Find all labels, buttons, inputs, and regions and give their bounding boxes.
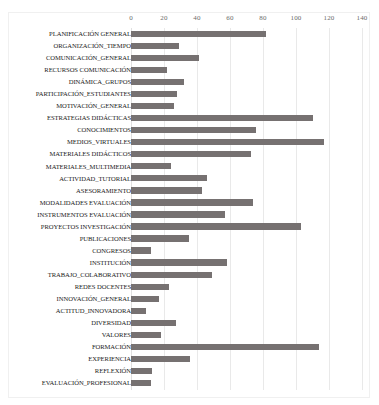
bar-row: ASESORAMIENTO <box>0 185 379 197</box>
bar-track <box>131 173 362 185</box>
category-label: REDES DOCENTES <box>3 281 131 293</box>
bar-row: REFLEXIÓN <box>0 365 379 377</box>
bar-row: EVALUACIÓN_PROFESIONAL <box>0 377 379 389</box>
bar <box>131 247 151 253</box>
bar-row: MATERIALES_MULTIMEDIA <box>0 161 379 173</box>
bar-track <box>131 52 362 64</box>
bar <box>131 380 151 386</box>
category-label: INSTITUCIÓN <box>3 257 131 269</box>
bar-track <box>131 64 362 76</box>
x-tick-label: 120 <box>323 14 334 22</box>
bar <box>131 356 190 362</box>
bar-track <box>131 257 362 269</box>
category-label: EVALUACIÓN_PROFESIONAL <box>3 377 131 389</box>
category-label: MOTIVACIÓN_GENERAL <box>3 100 131 112</box>
bar-track <box>131 28 362 40</box>
bar-row: ESTRATEGIAS DIDÁCTICAS <box>0 112 379 124</box>
category-label: TRABAJO_COLABORATIVO <box>3 269 131 281</box>
bar-row: PUBLICACIONES <box>0 233 379 245</box>
bar-track <box>131 305 362 317</box>
bar-row: RECURSOS COMUNICACIÓN <box>0 64 379 76</box>
bar <box>131 55 199 61</box>
category-label: CONGRESOS <box>3 245 131 257</box>
category-label: ESTRATEGIAS DIDÁCTICAS <box>3 112 131 124</box>
bar <box>131 103 174 109</box>
bar <box>131 175 207 181</box>
bar-track <box>131 136 362 148</box>
x-tick-label: 80 <box>259 14 266 22</box>
bar-row: EXPERIENCIA <box>0 353 379 365</box>
bar-row: MODALIDADES EVALUACIÓN <box>0 197 379 209</box>
bar-track <box>131 185 362 197</box>
bar <box>131 223 301 229</box>
bar-track <box>131 148 362 160</box>
bar-track <box>131 233 362 245</box>
bar-row: ACTITUD_INNOVADORA <box>0 305 379 317</box>
category-label: PLANIFICACIÓN GENERAL <box>3 28 131 40</box>
bar-row: MATERIALES DIDÁCTICOS <box>0 148 379 160</box>
bar <box>131 151 251 157</box>
x-tick-label: 100 <box>290 14 301 22</box>
bar-track <box>131 112 362 124</box>
bar <box>131 139 324 145</box>
bar <box>131 127 256 133</box>
bar-row: INSTITUCIÓN <box>0 257 379 269</box>
bar <box>131 284 169 290</box>
bar <box>131 308 146 314</box>
bar-rows: PLANIFICACIÓN GENERALORGANIZACIÓN_TIEMPO… <box>0 28 379 389</box>
category-label: FORMACIÓN <box>3 341 131 353</box>
bar-track <box>131 269 362 281</box>
bar-track <box>131 329 362 341</box>
bar <box>131 296 159 302</box>
bar-row: VALORES <box>0 329 379 341</box>
bar <box>131 187 202 193</box>
bar <box>131 332 161 338</box>
category-label: MEDIOS_VIRTUALES <box>3 136 131 148</box>
bar-row: PARTICIPACIÓN_ESTUDIANTES <box>0 88 379 100</box>
category-label: MATERIALES DIDÁCTICOS <box>3 148 131 160</box>
category-label: PUBLICACIONES <box>3 233 131 245</box>
bar-row: PLANIFICACIÓN GENERAL <box>0 28 379 40</box>
category-label: VALORES <box>3 329 131 341</box>
category-label: COMUNICACIÓN_GENERAL <box>3 52 131 64</box>
bar-track <box>131 317 362 329</box>
bar <box>131 79 184 85</box>
bar <box>131 368 152 374</box>
bar <box>131 235 189 241</box>
bar-track <box>131 161 362 173</box>
bar <box>131 115 313 121</box>
bar-row: PROYECTOS INVESTIGACIÓN <box>0 221 379 233</box>
bar-row: INNOVACIÓN_GENERAL <box>0 293 379 305</box>
category-label: ORGANIZACIÓN_TIEMPO <box>3 40 131 52</box>
bar <box>131 199 253 205</box>
bar-track <box>131 197 362 209</box>
category-label: ACTIVIDAD_TUTORIAL <box>3 173 131 185</box>
bar-track <box>131 245 362 257</box>
category-label: MATERIALES_MULTIMEDIA <box>3 161 131 173</box>
bar-row: REDES DOCENTES <box>0 281 379 293</box>
bar-track <box>131 377 362 389</box>
category-label: REFLEXIÓN <box>3 365 131 377</box>
category-label: RECURSOS COMUNICACIÓN <box>3 64 131 76</box>
category-label: PROYECTOS INVESTIGACIÓN <box>3 221 131 233</box>
bar-row: DIVERSIDAD <box>0 317 379 329</box>
x-tick-label: 140 <box>356 14 367 22</box>
bar-row: MOTIVACIÓN_GENERAL <box>0 100 379 112</box>
category-label: ASESORAMIENTO <box>3 185 131 197</box>
category-label: EXPERIENCIA <box>3 353 131 365</box>
category-label: INNOVACIÓN_GENERAL <box>3 293 131 305</box>
bar-row: TRABAJO_COLABORATIVO <box>0 269 379 281</box>
bar <box>131 43 179 49</box>
bar <box>131 259 227 265</box>
bar-track <box>131 221 362 233</box>
bar-track <box>131 365 362 377</box>
bar <box>131 272 212 278</box>
bar-chart: 020406080100120140 PLANIFICACIÓN GENERAL… <box>0 0 379 405</box>
bar-row: ACTIVIDAD_TUTORIAL <box>0 173 379 185</box>
x-tick-label: 40 <box>193 14 200 22</box>
x-tick-label: 60 <box>226 14 233 22</box>
bar-track <box>131 209 362 221</box>
bar-track <box>131 88 362 100</box>
bar-row: MEDIOS_VIRTUALES <box>0 136 379 148</box>
bar <box>131 344 319 350</box>
